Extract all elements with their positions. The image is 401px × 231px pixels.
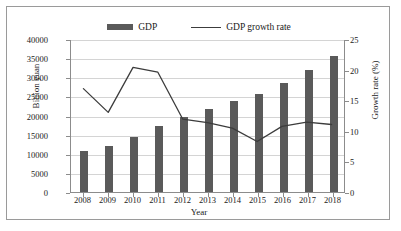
y-axis-tick-mark (66, 193, 70, 194)
chart-legend: GDP GDP growth rate (7, 22, 391, 32)
bar-swatch-icon (107, 24, 133, 30)
secondary-y-axis-tick-label: 25 (350, 36, 376, 45)
y-axis-tick-label: 35000 (0, 55, 48, 64)
x-axis-tick-mark (108, 193, 109, 197)
y-axis-tick-label: 0 (0, 189, 48, 198)
secondary-y-axis-tick-mark (345, 71, 349, 72)
secondary-y-axis-tick-mark (345, 132, 349, 133)
secondary-y-axis-tick-mark (345, 162, 349, 163)
secondary-y-axis-tick-label: 15 (350, 97, 376, 106)
x-axis-tick-mark (258, 193, 259, 197)
secondary-y-axis-tick-label: 5 (350, 158, 376, 167)
x-axis-tick-mark (83, 193, 84, 197)
secondary-y-axis-tick-label: 0 (350, 189, 376, 198)
x-axis-tick-mark (158, 193, 159, 197)
x-axis-tick-mark (208, 193, 209, 197)
x-axis-tick-mark (308, 193, 309, 197)
x-axis-tick-mark (333, 193, 334, 197)
legend-item-gdp: GDP (107, 22, 157, 32)
secondary-y-axis-tick-label: 20 (350, 67, 376, 76)
x-axis-tick-mark (283, 193, 284, 197)
x-axis-tick-mark (133, 193, 134, 197)
legend-label-gdp: GDP (138, 22, 157, 32)
y-axis-tick-label: 40000 (0, 36, 48, 45)
x-axis-tick-mark (183, 193, 184, 197)
secondary-y-axis-tick-mark (345, 40, 349, 41)
x-axis-tick-mark (233, 193, 234, 197)
secondary-y-axis-tick-mark (345, 193, 349, 194)
legend-item-gdp-growth-rate: GDP growth rate (191, 22, 291, 32)
line-swatch-icon (191, 27, 221, 28)
y-axis-tick-label: 30000 (0, 74, 48, 83)
gdp-growth-rate-line (83, 67, 331, 141)
legend-label-gdp-growth-rate: GDP growth rate (226, 22, 291, 32)
y-axis-tick-label: 10000 (0, 151, 48, 160)
x-axis-tick-label: 2018 (313, 196, 353, 205)
y-axis-tick-label: 25000 (0, 93, 48, 102)
secondary-y-axis-tick-label: 10 (350, 128, 376, 137)
x-axis-title: Year (7, 207, 391, 217)
plot-area (70, 40, 345, 193)
secondary-y-axis-title: Growth rate (%) (370, 40, 380, 140)
secondary-y-axis-tick-mark (345, 101, 349, 102)
chart-frame: GDP GDP growth rate Billion yuan Growth … (6, 6, 390, 220)
y-axis-tick-label: 5000 (0, 170, 48, 179)
y-axis-tick-label: 20000 (0, 113, 48, 122)
y-axis-tick-label: 15000 (0, 132, 48, 141)
line-series-layer (71, 40, 344, 192)
